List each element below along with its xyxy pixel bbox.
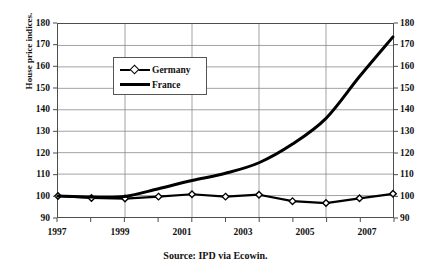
axis-tick-marks <box>0 0 431 274</box>
legend-label-france: France <box>150 80 181 90</box>
legend: Germany France <box>113 57 207 95</box>
legend-entry-france: France <box>120 77 206 92</box>
house-price-indices-chart: House price indices. 180 170 160 150 140… <box>0 0 431 274</box>
legend-swatch-france-line-icon <box>120 79 150 91</box>
legend-swatch-germany-diamond-icon <box>120 64 150 76</box>
source-caption: Source: IPD via Ecowin. <box>0 250 431 261</box>
legend-label-germany: Germany <box>150 65 191 75</box>
legend-entry-germany: Germany <box>120 62 206 77</box>
